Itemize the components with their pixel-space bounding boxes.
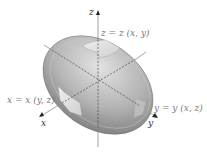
z-axis-label: z xyxy=(88,7,94,17)
y-axis-back xyxy=(136,52,146,59)
x-axis-label: x xyxy=(41,118,46,128)
x-patch-label: x = x (y, z) xyxy=(7,95,55,105)
z-patch-label: z = z (x, y) xyxy=(100,28,150,38)
y-patch-label: y = y (x, z) xyxy=(153,103,203,113)
y-axis-label: y xyxy=(147,118,154,128)
z-arrow-icon xyxy=(96,10,100,15)
x-arrow-icon xyxy=(39,112,44,117)
ellipsoid-diagram: z x y z = z (x, y) x = x (y, z) y = y (x… xyxy=(0,0,207,152)
